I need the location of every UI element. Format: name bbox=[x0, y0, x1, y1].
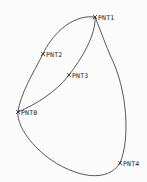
point-pnt0: PNT0 bbox=[16, 109, 37, 117]
point-label: PNT3 bbox=[72, 72, 88, 80]
x-marker-icon bbox=[67, 73, 71, 77]
diagram-canvas: PNT0 PNT1 PNT2 PNT3 PNT4 bbox=[0, 0, 147, 182]
point-label: PNT2 bbox=[46, 51, 62, 59]
point-label: PNT1 bbox=[98, 14, 114, 22]
inner-curve bbox=[18, 17, 95, 112]
x-marker-icon bbox=[41, 52, 45, 56]
curve-drawing: PNT0 PNT1 PNT2 PNT3 PNT4 bbox=[0, 0, 147, 182]
outer-curve bbox=[18, 17, 126, 176]
point-label: PNT4 bbox=[123, 160, 139, 168]
x-marker-icon bbox=[118, 161, 122, 165]
point-label: PNT0 bbox=[21, 109, 37, 117]
